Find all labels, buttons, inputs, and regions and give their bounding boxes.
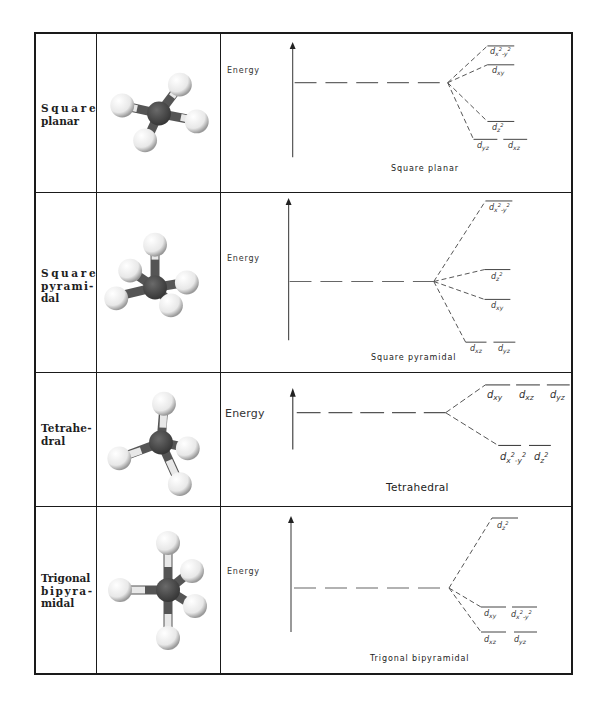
ligand-atom bbox=[118, 259, 142, 283]
geometry-name: Square planar bbox=[41, 102, 98, 127]
ligand-atom bbox=[133, 128, 157, 152]
orbital-label: dx2-y2 bbox=[490, 46, 511, 57]
orbital-label: dyz bbox=[514, 635, 526, 645]
ligand-atom bbox=[180, 559, 204, 583]
geometry-caption: Tetrahedral bbox=[386, 481, 449, 493]
energy-arrow-icon bbox=[290, 42, 296, 49]
ligand-atom bbox=[168, 472, 192, 496]
orbital-label: dyz bbox=[498, 344, 510, 354]
ligand-atom bbox=[168, 73, 192, 97]
energy-arrow-icon bbox=[288, 516, 294, 523]
orbital-label: dz2 bbox=[497, 520, 508, 531]
geometry-name-cell: Square pyrami- dal bbox=[36, 193, 97, 372]
geometry-caption: Square pyramidal bbox=[371, 353, 456, 362]
ligand-atom bbox=[104, 286, 128, 310]
ligand-atom bbox=[143, 233, 167, 257]
ligand-atom bbox=[152, 392, 176, 416]
square-pyramidal-molecule-icon bbox=[97, 193, 221, 372]
ligand-atom bbox=[110, 94, 134, 118]
geometry-name: Trigonal bipyra- midal bbox=[41, 572, 94, 610]
ligand-atom bbox=[183, 594, 207, 618]
central-atom bbox=[147, 102, 171, 126]
geometry-name-cell: Square planar bbox=[36, 34, 97, 192]
geometry-caption: Trigonal bipyramidal bbox=[370, 654, 469, 663]
orbital-label: dx2-y2 bbox=[489, 202, 510, 213]
table-row-square-pyramidal: Square pyrami- dal bbox=[36, 193, 571, 373]
crystal-field-splitting-table: Square planar bbox=[34, 32, 573, 675]
orbital-label: dz2 bbox=[491, 271, 502, 282]
energy-diagram-cell: Energy dz2 dxy dx2-y2 dxz dyz Trigonal b… bbox=[221, 507, 571, 673]
splitting-lines bbox=[434, 201, 486, 342]
geometry-name-cell: Tetrahe- dral bbox=[36, 373, 97, 506]
central-atom bbox=[149, 431, 173, 455]
orbital-label: dxz bbox=[519, 389, 534, 402]
geometry-name: Square pyrami- dal bbox=[41, 267, 98, 305]
orbital-label: dxz bbox=[508, 141, 520, 151]
molecule-cell bbox=[97, 193, 221, 372]
orbital-label: dxy bbox=[487, 389, 502, 402]
ligand-atom bbox=[175, 271, 199, 295]
orbital-label: dx2-y2 bbox=[511, 609, 532, 620]
ligand-atom bbox=[108, 578, 132, 602]
orbital-label: dyz bbox=[550, 389, 565, 402]
square-planar-molecule-icon bbox=[97, 34, 221, 192]
trigonal-bipyramidal-molecule-icon bbox=[97, 507, 221, 673]
energy-label: Energy bbox=[225, 407, 265, 420]
orbital-label: dxy bbox=[484, 609, 496, 619]
table-row-trigonal-bipyramidal: Trigonal bipyra- midal bbox=[36, 507, 571, 673]
energy-label: Energy bbox=[227, 567, 260, 576]
central-atom bbox=[143, 276, 167, 300]
geometry-name: Tetrahe- dral bbox=[41, 422, 92, 447]
energy-label: Energy bbox=[227, 66, 260, 75]
ligand-atom bbox=[185, 110, 209, 134]
square-pyramidal-splitting-diagram bbox=[221, 193, 571, 372]
energy-arrow-icon bbox=[286, 198, 292, 205]
energy-diagram-cell: Energy dx2-y2 dz2 dxy dxz dyz Square pyr… bbox=[221, 193, 571, 372]
geometry-name-cell: Trigonal bipyra- midal bbox=[36, 507, 97, 673]
orbital-label: dx2-y2 bbox=[500, 451, 526, 465]
geometry-caption: Square planar bbox=[391, 164, 459, 173]
ligand-atom bbox=[107, 446, 131, 470]
molecule-cell bbox=[97, 34, 221, 192]
splitting-lines bbox=[448, 46, 488, 139]
trigonal-bipyramidal-splitting-diagram bbox=[221, 507, 571, 673]
orbital-label: dxz bbox=[470, 344, 482, 354]
orbital-label: dxy bbox=[492, 66, 504, 76]
ligand-atom bbox=[176, 437, 200, 461]
molecule-cell bbox=[97, 373, 221, 506]
orbital-label: dxz bbox=[484, 635, 496, 645]
energy-diagram-cell: Energy dxy dxz dyz dx2-y2 dz2 Tetrahedra… bbox=[221, 373, 571, 506]
ligand-atom bbox=[156, 626, 180, 650]
energy-label: Energy bbox=[227, 254, 260, 263]
table-row-square-planar: Square planar bbox=[36, 34, 571, 193]
table-row-tetrahedral: Tetrahe- dral bbox=[36, 373, 571, 507]
molecule-cell bbox=[97, 507, 221, 673]
ligand-atom bbox=[156, 531, 180, 555]
tetrahedral-molecule-icon bbox=[97, 373, 221, 506]
orbital-label: dxy bbox=[491, 301, 503, 311]
orbital-label: dyz bbox=[477, 141, 489, 151]
orbital-label: dz2 bbox=[492, 122, 503, 133]
central-atom bbox=[156, 578, 180, 602]
energy-diagram-cell: Energy dx2-y2 dxy dz2 dyz dxz Square pla… bbox=[221, 34, 571, 192]
ligand-atom bbox=[159, 293, 183, 317]
orbital-label: dz2 bbox=[534, 451, 548, 465]
energy-arrow-icon bbox=[290, 388, 296, 397]
